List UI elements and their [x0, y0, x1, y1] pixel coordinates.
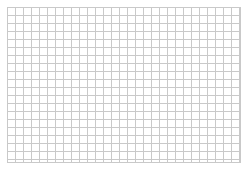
grid-lines: [7, 7, 241, 163]
grid-canvas: [0, 0, 248, 170]
